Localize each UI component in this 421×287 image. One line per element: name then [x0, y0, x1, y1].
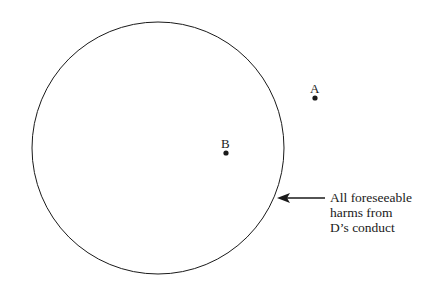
point-b-dot — [223, 150, 228, 155]
diagram-canvas — [0, 0, 421, 287]
point-b-label: B — [221, 136, 230, 151]
foreseeable-harms-circle — [32, 22, 284, 274]
point-a-dot — [312, 95, 317, 100]
callout-line-1: All foreseeable — [330, 190, 412, 205]
point-a-label: A — [310, 81, 319, 96]
circle-callout-label: All foreseeable harms from D’s conduct — [330, 190, 412, 235]
callout-line-3: D’s conduct — [330, 220, 412, 235]
callout-line-2: harms from — [330, 205, 412, 220]
